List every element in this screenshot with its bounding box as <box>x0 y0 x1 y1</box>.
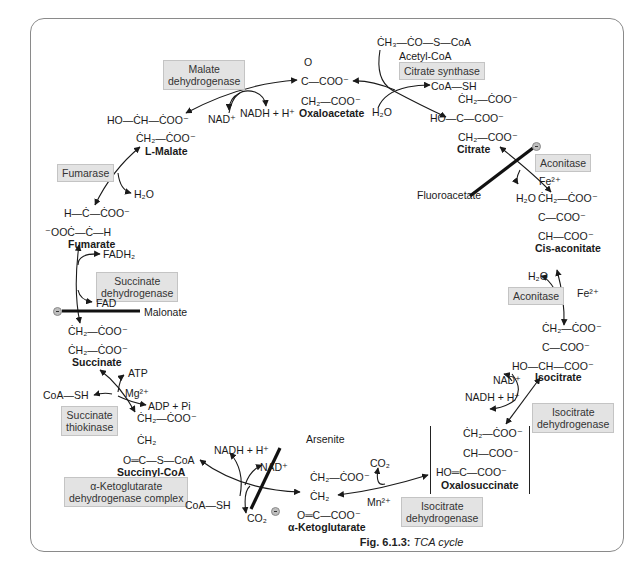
citrate-line3: CH₂—COO⁻ <box>458 131 518 143</box>
enzyme-akg-dehydrogenase-complex: α-Ketoglutaratedehydrogenase complex <box>64 477 188 507</box>
isocitrate-line2: C—COO⁻ <box>542 341 590 353</box>
akg-line3: O═C—COO⁻ <box>297 509 361 521</box>
enzyme-fumarase: Fumarase <box>57 164 114 182</box>
cofactor-mg: Mg²⁺ <box>125 387 149 399</box>
isocitrate-name: Isocitrate <box>535 371 582 383</box>
cis-aconitate-line3: CH—COO⁻ <box>538 230 594 242</box>
inhibitor-arsenite: Arsenite <box>306 433 345 445</box>
citrate-line1: ĊH₂—ĊOO⁻ <box>458 93 518 105</box>
cofactor-atp: ATP <box>128 367 148 379</box>
cofactor-fe-2: Fe²⁺ <box>577 287 599 299</box>
cofactor-co2-akg: CO₂ <box>247 512 267 524</box>
cofactor-fe-1: Fe²⁺ <box>539 175 561 187</box>
akg-name: α-Ketoglutarate <box>288 521 366 533</box>
cofactor-h2o-aconitase-1: H₂O <box>516 192 536 204</box>
malate-line1: HO—ĊH—ĊOO⁻ <box>107 114 189 126</box>
cofactor-h2o: H₂O <box>372 106 392 118</box>
enzyme-isocitrate-dehydrogenase-2: Isocitratedehydrogenase <box>401 497 483 527</box>
cofactor-nadh-akg: NADH + H⁺ <box>214 444 269 456</box>
fumarate-line2: ⁻OOĊ—Ċ—H <box>45 226 111 238</box>
cofactor-mn: Mn²⁺ <box>367 496 391 508</box>
cofactor-fad: FAD <box>96 297 116 309</box>
cofactor-h2o-aconitase-2: H₂O <box>528 270 548 282</box>
cis-aconitate-name: Cis-aconitate <box>535 242 601 254</box>
oxaloacetate-line1: C—COO⁻ <box>301 75 349 87</box>
cofactor-coash-akg: CoA—SH <box>185 499 231 511</box>
acetyl-coa-formula: ĊH₃—ĊO—S—CoA <box>377 36 471 48</box>
succinyl-coa-line2: ĊH₂ <box>137 434 156 446</box>
oxalosuccinate-bracket <box>430 426 530 494</box>
inhibitor-icon-malonate <box>53 307 62 316</box>
cofactor-coash-thiokinase: CoA—SH <box>43 389 89 401</box>
figure-caption: Fig. 6.1.3: TCA cycle <box>0 536 643 548</box>
oxaloacetate-name: Oxaloacetate <box>299 107 364 119</box>
malate-name: L-Malate <box>145 145 188 157</box>
inhibitor-malonate: Malonate <box>144 306 187 318</box>
malate-line2: ĊH₂—ĊOO⁻ <box>136 132 196 144</box>
succinyl-coa-line1: ĊH₂—ĊOO⁻ <box>137 412 197 424</box>
isocitrate-line1: ĊH₂—ĊOO⁻ <box>542 322 602 334</box>
succinate-line1: ĊH₂—ĊOO⁻ <box>68 325 128 337</box>
enzyme-succinate-thiokinase: Succinatethiokinase <box>61 406 118 436</box>
cofactor-fadh2: FADH₂ <box>103 248 135 260</box>
cofactor-h2o-fumarase: H₂O <box>134 188 154 200</box>
enzyme-aconitase-2: Aconitase <box>508 287 564 305</box>
inhibitor-icon-arsenite <box>271 507 280 516</box>
inhibitor-icon-fluoroacetate <box>532 142 541 151</box>
enzyme-malate-dehydrogenase: Malatedehydrogenase <box>163 60 245 90</box>
oxaloacetate-o: O <box>304 56 312 68</box>
enzyme-citrate-synthase: Citrate synthase <box>399 62 485 80</box>
cofactor-nadh-isocitrate: NADH + H⁺ <box>465 391 520 403</box>
cis-aconitate-line1: ĊH₂—ĊOO⁻ <box>538 192 598 204</box>
enzyme-isocitrate-dehydrogenase-1: Isocitratedehydrogenase <box>532 403 614 433</box>
citrate-name: Citrate <box>457 143 490 155</box>
oxaloacetate-line2: CH₂—COO⁻ <box>301 95 361 107</box>
akg-line1: ĊH₂—ĊOO⁻ <box>310 471 370 483</box>
akg-line2: ĊH₂ <box>310 490 329 502</box>
cofactor-coash: CoA—SH <box>431 80 477 92</box>
enzyme-aconitase-1: Aconitase <box>535 154 591 172</box>
cofactor-nad-akg: NAD⁺ <box>260 461 288 473</box>
acetyl-coa-name: Acetyl-CoA <box>399 50 452 62</box>
citrate-line2: HO—C—COO⁻ <box>430 112 504 124</box>
cofactor-adp-pi: ADP + Pi <box>148 400 191 412</box>
succinate-name: Succinate <box>72 356 122 368</box>
cis-aconitate-line2: C—COO⁻ <box>538 211 586 223</box>
cofactor-nadh-malate: NADH + H⁺ <box>240 107 295 119</box>
cofactor-co2-oxalosuccinate: CO₂ <box>370 457 390 469</box>
cofactor-nad-malate: NAD⁺ <box>208 113 236 125</box>
cofactor-nad-isocitrate: NAD⁺ <box>493 374 521 386</box>
succinate-line2: ĊH₂—ĊOO⁻ <box>68 344 128 356</box>
fumarate-line1: H—Ċ—ĊOO⁻ <box>64 207 130 219</box>
succinyl-coa-line3: O═C—S—CoA <box>123 454 195 466</box>
inhibitor-fluoroacetate: Fluoroacetate <box>417 189 481 201</box>
